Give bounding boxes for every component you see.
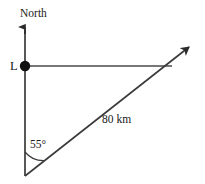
distance-label: 80 km (102, 114, 131, 126)
angle-label: 55° (30, 139, 46, 151)
bearing-diagram: North L 55° 80 km (0, 0, 205, 184)
angle-arc (25, 152, 44, 161)
diagram-canvas (0, 0, 205, 184)
point-l-label: L (10, 60, 18, 73)
point-l-marker (20, 61, 30, 71)
north-label: North (20, 8, 47, 20)
